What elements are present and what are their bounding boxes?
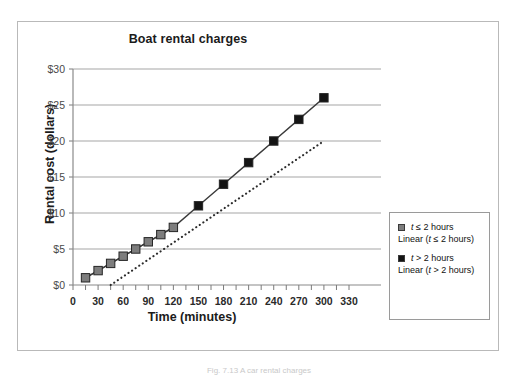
- legend-trend-black: Linear (t > 2 hours): [398, 265, 482, 275]
- legend-trend-gray: Linear (t ≤ 2 hours): [398, 234, 482, 244]
- data-point: [194, 202, 202, 210]
- legend-cond-2: > 2 hours: [414, 253, 454, 263]
- data-point: [295, 115, 303, 123]
- x-tick-label: 150: [190, 295, 208, 307]
- x-tick-label: 210: [240, 295, 258, 307]
- legend-swatch-black: [398, 255, 405, 262]
- data-point: [144, 238, 152, 246]
- y-tick-label: $20: [47, 135, 65, 147]
- x-tick-label: 90: [142, 295, 154, 307]
- legend-label-black: t > 2 hours: [411, 253, 454, 263]
- legend-cond-1: ≤ 2 hours: [414, 222, 454, 232]
- y-tick-label: $15: [47, 171, 65, 183]
- x-axis: 0306090120150180210240270300330: [70, 285, 381, 307]
- chart-legend: t ≤ 2 hours Linear (t ≤ 2 hours) t > 2 h…: [389, 212, 490, 320]
- data-point: [132, 245, 140, 253]
- gridlines: [73, 69, 381, 249]
- series-line: [198, 98, 323, 206]
- x-tick-label: 300: [315, 295, 333, 307]
- y-tick-label: $5: [53, 243, 65, 255]
- x-tick-label: 30: [92, 295, 104, 307]
- y-tick-label: $0: [53, 279, 65, 291]
- data-point: [270, 137, 278, 145]
- data-point: [320, 94, 328, 102]
- y-tick-label: $25: [47, 99, 65, 111]
- x-tick-label: 330: [340, 295, 358, 307]
- data-point: [169, 223, 177, 231]
- legend-swatch-gray: [398, 224, 405, 231]
- legend-trend-rest-2: > 2 hours): [431, 265, 474, 275]
- y-tick-label: $30: [47, 63, 65, 75]
- legend-item-gray: t ≤ 2 hours: [398, 222, 482, 232]
- x-tick-label: 240: [265, 295, 283, 307]
- data-series: [81, 94, 328, 285]
- legend-trend-rest-1: ≤ 2 hours): [431, 234, 474, 244]
- data-point: [94, 266, 102, 274]
- x-tick-label: 270: [290, 295, 308, 307]
- data-point: [81, 274, 89, 282]
- legend-item-black: t > 2 hours: [398, 253, 482, 263]
- figure-frame: Boat rental charges Rental cost (dollars…: [17, 21, 499, 351]
- data-point: [106, 259, 114, 267]
- x-tick-label: 0: [70, 295, 76, 307]
- x-tick-label: 60: [117, 295, 129, 307]
- x-tick-label: 120: [165, 295, 183, 307]
- y-axis: $0$5$10$15$20$25$30: [47, 63, 73, 291]
- x-tick-label: 180: [215, 295, 233, 307]
- legend-trend-prefix-2: Linear (: [398, 265, 429, 275]
- legend-label-gray: t ≤ 2 hours: [411, 222, 453, 232]
- y-tick-label: $10: [47, 207, 65, 219]
- legend-trend-prefix-1: Linear (: [398, 234, 429, 244]
- data-point: [244, 158, 252, 166]
- data-point: [119, 252, 127, 260]
- figure-caption: Fig. 7.13 A car rental charges: [0, 366, 518, 375]
- data-point: [157, 230, 165, 238]
- data-point: [219, 180, 227, 188]
